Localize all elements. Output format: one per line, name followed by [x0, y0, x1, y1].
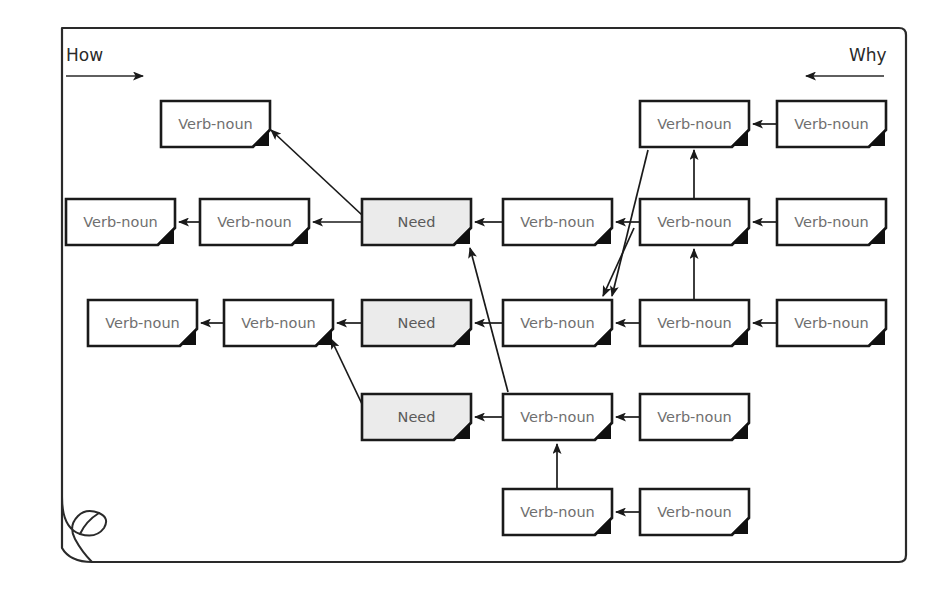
node-label: Verb-noun — [657, 409, 732, 425]
diagram-canvas: How Why Verb-nounVerb-nounVerb-nounVerb-… — [0, 0, 951, 591]
verb-noun-node[interactable]: Verb-noun — [640, 300, 749, 346]
need-node[interactable]: Need — [362, 199, 471, 245]
node-label: Verb-noun — [520, 409, 595, 425]
node-label: Verb-noun — [657, 315, 732, 331]
node-label: Verb-noun — [520, 315, 595, 331]
page-curl-icon — [62, 497, 106, 562]
verb-noun-node[interactable]: Verb-noun — [777, 199, 886, 245]
verb-noun-node[interactable]: Verb-noun — [66, 199, 175, 245]
how-axis-label: How — [66, 45, 103, 65]
need-node[interactable]: Need — [362, 300, 471, 346]
page-curl-inner-icon — [80, 513, 99, 534]
node-label: Verb-noun — [241, 315, 316, 331]
node-label: Verb-noun — [217, 214, 292, 230]
verb-noun-node[interactable]: Verb-noun — [640, 489, 749, 535]
node-label: Verb-noun — [178, 116, 253, 132]
verb-noun-node[interactable]: Verb-noun — [88, 300, 197, 346]
nodes-layer: Verb-nounVerb-nounVerb-nounVerb-nounVerb… — [66, 101, 886, 535]
how-axis: How — [66, 45, 143, 76]
node-label: Verb-noun — [657, 504, 732, 520]
verb-noun-node[interactable]: Verb-noun — [503, 394, 612, 440]
node-label: Verb-noun — [657, 116, 732, 132]
verb-noun-node[interactable]: Verb-noun — [161, 101, 270, 147]
connector-arrow — [331, 339, 362, 404]
node-label: Verb-noun — [794, 116, 869, 132]
verb-noun-node[interactable]: Verb-noun — [640, 199, 749, 245]
why-how-tree-svg: How Why Verb-nounVerb-nounVerb-nounVerb-… — [0, 0, 951, 591]
node-label: Verb-noun — [520, 504, 595, 520]
node-label: Verb-noun — [794, 214, 869, 230]
node-label: Verb-noun — [520, 214, 595, 230]
why-axis-label: Why — [849, 45, 887, 65]
node-label: Need — [398, 315, 436, 331]
node-label: Verb-noun — [83, 214, 158, 230]
verb-noun-node[interactable]: Verb-noun — [503, 199, 612, 245]
verb-noun-node[interactable]: Verb-noun — [777, 300, 886, 346]
node-label: Need — [398, 409, 436, 425]
need-node[interactable]: Need — [362, 394, 471, 440]
node-label: Need — [398, 214, 436, 230]
verb-noun-node[interactable]: Verb-noun — [777, 101, 886, 147]
verb-noun-node[interactable]: Verb-noun — [640, 394, 749, 440]
why-axis: Why — [806, 45, 887, 76]
node-label: Verb-noun — [105, 315, 180, 331]
verb-noun-node[interactable]: Verb-noun — [503, 489, 612, 535]
verb-noun-node[interactable]: Verb-noun — [503, 300, 612, 346]
verb-noun-node[interactable]: Verb-noun — [200, 199, 309, 245]
verb-noun-node[interactable]: Verb-noun — [224, 300, 333, 346]
node-label: Verb-noun — [794, 315, 869, 331]
node-label: Verb-noun — [657, 214, 732, 230]
verb-noun-node[interactable]: Verb-noun — [640, 101, 749, 147]
